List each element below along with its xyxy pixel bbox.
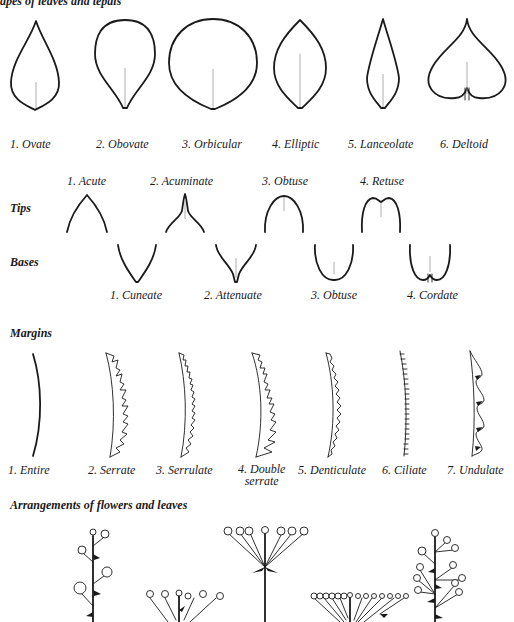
margin-ciliate-icon — [398, 350, 414, 458]
margin-label-undulate: 7. Undulate — [447, 463, 504, 478]
margin-label-ciliate: 6. Ciliate — [382, 463, 427, 478]
margin-label-entire: 1. Entire — [8, 463, 50, 478]
arrangement-umbel-icon — [222, 527, 316, 622]
margin-label-serrulate: 3. Serrulate — [156, 463, 213, 478]
tip-label-retuse: 4. Retuse — [360, 174, 404, 189]
leaf-shape-ovate-icon — [0, 20, 70, 110]
arrangement-panicle-icon — [410, 528, 470, 622]
tip-acuminate-icon — [165, 193, 205, 233]
leaf-shape-orbicular-icon — [167, 17, 259, 111]
margin-label-double-serrate: 4. Double serrate — [238, 463, 285, 487]
margin-entire-icon — [30, 353, 46, 457]
shape-label-deltoid: 6. Deltoid — [440, 137, 488, 152]
tips-heading: Tips — [10, 201, 31, 216]
arrangement-raceme-icon — [70, 524, 120, 622]
base-label-obtuse: 3. Obtuse — [311, 288, 357, 303]
margin-label-serrate: 2. Serrate — [88, 463, 135, 478]
tip-retuse-icon — [361, 193, 401, 233]
margin-serrate-icon — [104, 352, 130, 458]
leaf-shape-elliptic-icon — [272, 18, 328, 110]
margin-double-serrate-icon — [250, 352, 280, 458]
tip-label-obtuse: 3. Obtuse — [262, 174, 308, 189]
shape-label-ovate: 1. Ovate — [10, 137, 51, 152]
arrangements-heading: Arrangements of flowers and leaves — [10, 498, 187, 513]
margin-serrulate-icon — [177, 352, 199, 458]
shape-label-elliptic: 4. Elliptic — [272, 137, 319, 152]
base-attenuate-icon — [215, 244, 257, 284]
leaf-shape-lanceolate-icon — [363, 18, 403, 110]
base-obtuse-icon — [314, 244, 354, 284]
arrangement-compound-corymb-icon — [310, 592, 410, 622]
tip-label-acute: 1. Acute — [67, 174, 106, 189]
bases-heading: Bases — [10, 255, 39, 270]
base-label-attenuate: 2. Attenuate — [204, 288, 262, 303]
shape-label-orbicular: 3. Orbicular — [182, 137, 242, 152]
margins-heading: Margins — [10, 326, 52, 341]
margin-label-denticulate: 5. Denticulate — [298, 463, 366, 478]
tip-label-acuminate: 2. Acuminate — [150, 174, 213, 189]
leaf-shape-obovate-icon — [90, 18, 160, 110]
shape-label-lanceolate: 5. Lanceolate — [348, 137, 413, 152]
base-cuneate-icon — [117, 244, 157, 284]
base-label-cordate: 4. Cordate — [407, 288, 458, 303]
leaf-shape-deltoid-icon — [425, 18, 509, 102]
tip-obtuse-icon — [264, 193, 304, 233]
base-label-cuneate: 1. Cuneate — [110, 288, 162, 303]
base-cordate-icon — [409, 244, 451, 284]
margin-label-double-serrate-line2: serrate — [238, 475, 285, 487]
figure-top-caption: apes of leaves and tepals — [0, 0, 121, 9]
margin-denticulate-icon — [324, 352, 346, 458]
shape-label-obovate: 2. Obovate — [96, 137, 149, 152]
tip-acute-icon — [66, 193, 108, 233]
margin-undulate-icon — [468, 350, 492, 458]
